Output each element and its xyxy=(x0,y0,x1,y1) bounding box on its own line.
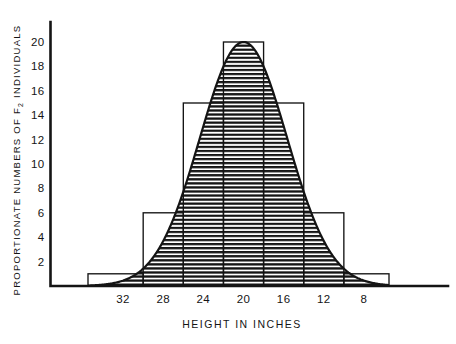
y-tick-label: 12 xyxy=(31,134,45,146)
y-tick-label: 6 xyxy=(38,207,45,219)
x-tick-label: 28 xyxy=(156,293,170,305)
x-tick-label: 16 xyxy=(277,293,291,305)
chart-figure: 2018161412108642 3228242016128 HEIGHT IN… xyxy=(0,0,456,344)
y-tick-label: 10 xyxy=(31,158,45,170)
svg-text:PROPORTIONATE NUMBERS OF F2 IN: PROPORTIONATE NUMBERS OF F2 INDIVIDUALS xyxy=(11,25,24,296)
x-tick-label: 8 xyxy=(361,293,368,305)
x-axis-tick-labels: 3228242016128 xyxy=(116,293,367,305)
y-tick-label: 8 xyxy=(38,182,45,194)
x-tick-label: 24 xyxy=(197,293,211,305)
y-tick-label: 14 xyxy=(31,109,45,121)
distribution-chart: 2018161412108642 3228242016128 HEIGHT IN… xyxy=(0,0,456,344)
y-tick-label: 18 xyxy=(31,60,45,72)
y-tick-label: 20 xyxy=(31,36,45,48)
y-tick-label: 16 xyxy=(31,85,45,97)
y-tick-label: 2 xyxy=(38,256,45,268)
y-tick-label: 4 xyxy=(38,231,45,243)
x-tick-label: 12 xyxy=(317,293,331,305)
y-axis-title: PROPORTIONATE NUMBERS OF F2 INDIVIDUALS xyxy=(11,25,24,296)
x-axis-title: HEIGHT IN INCHES xyxy=(182,318,301,330)
x-tick-label: 32 xyxy=(116,293,130,305)
x-tick-label: 20 xyxy=(237,293,251,305)
y-axis-tick-labels: 2018161412108642 xyxy=(31,36,45,268)
